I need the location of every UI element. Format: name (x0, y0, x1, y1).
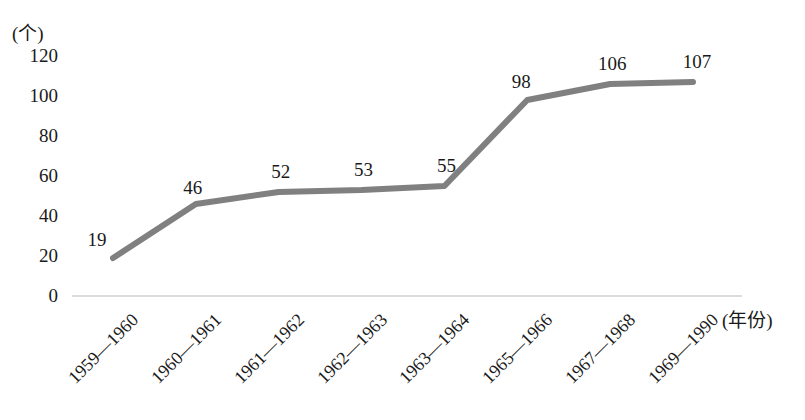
y-tick-label: 80 (14, 126, 58, 145)
y-tick-label: 0 (14, 286, 58, 305)
data-point-label: 107 (683, 52, 712, 71)
data-point-label: 19 (88, 230, 107, 249)
data-point-label: 106 (598, 54, 627, 73)
y-tick-label: 60 (14, 166, 58, 185)
data-point-label: 55 (437, 156, 456, 175)
y-tick-label: 20 (14, 246, 58, 265)
data-series-line (113, 82, 693, 258)
data-point-label: 53 (354, 160, 373, 179)
data-point-label: 98 (512, 72, 531, 91)
y-tick-label: 100 (14, 86, 58, 105)
y-tick-label: 120 (14, 46, 58, 65)
data-point-label: 52 (271, 162, 290, 181)
line-chart: (个) (年份) 020406080100120 1959—19601960—1… (0, 0, 805, 420)
data-point-label: 46 (183, 178, 202, 197)
y-tick-label: 40 (14, 206, 58, 225)
